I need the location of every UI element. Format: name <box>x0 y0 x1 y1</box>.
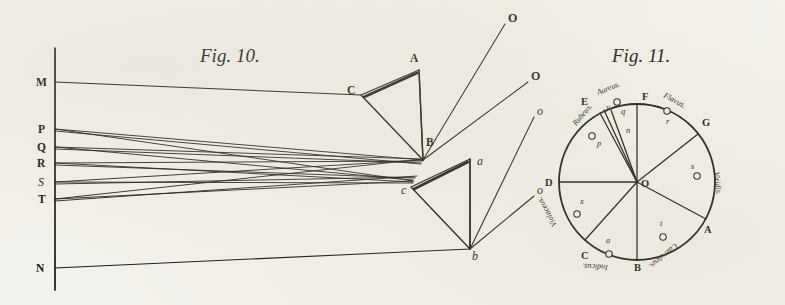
prism-vertex-label-A: A <box>410 52 419 64</box>
rim-label-D: D <box>545 177 553 188</box>
engraving-plate: Fig. 10. M P Q R S T N <box>0 0 785 305</box>
fig10-title: Fig. 10. <box>199 45 260 66</box>
sector-marker-s <box>694 173 700 179</box>
prism-vertex-label-a: a <box>477 154 483 168</box>
source-label-N: N <box>36 262 45 274</box>
prism-vertex-label-b: b <box>472 249 478 263</box>
rim-label-G: G <box>702 117 710 128</box>
source-label-T: T <box>38 193 46 205</box>
sector-marker-x <box>574 211 580 217</box>
inner-mark-letter-y: y <box>605 102 610 112</box>
emergent-label-O-2: O <box>531 69 540 83</box>
wheel-center-label-O: O <box>641 178 649 189</box>
sector-marker-r <box>664 108 670 114</box>
sector-marker-q <box>614 99 620 105</box>
fig11-title: Fig. 11. <box>611 45 670 66</box>
source-label-R: R <box>37 157 46 169</box>
sector-letter-x: x <box>579 196 584 206</box>
source-label-P: P <box>38 123 45 135</box>
prism-vertex-label-c: c <box>401 183 407 197</box>
plate-canvas: Fig. 10. M P Q R S T N <box>0 0 785 305</box>
sector-marker-t <box>660 234 666 240</box>
emergent-label-o-2: o <box>537 183 543 197</box>
prism-vertex-label-C: C <box>347 84 355 96</box>
source-label-Q: Q <box>37 141 46 153</box>
rim-label-A: A <box>704 224 712 235</box>
sector-marker-u <box>606 251 612 257</box>
colour-name-indicus: Indicus. <box>582 262 609 272</box>
rim-label-F: F <box>642 91 648 102</box>
sector-letter-a: a <box>606 235 610 245</box>
emergent-label-O-1: O <box>508 11 517 25</box>
emergent-label-o-1: o <box>537 104 543 118</box>
source-label-M: M <box>36 76 47 88</box>
inner-mark-letter-n: n <box>626 125 630 135</box>
source-label-S: S <box>38 175 44 189</box>
sector-letter-p: p <box>596 138 601 148</box>
prism-vertex-label-B: B <box>426 136 434 148</box>
rim-label-C: C <box>581 250 589 261</box>
sector-marker-p <box>589 133 595 139</box>
rim-label-B: B <box>634 262 641 273</box>
